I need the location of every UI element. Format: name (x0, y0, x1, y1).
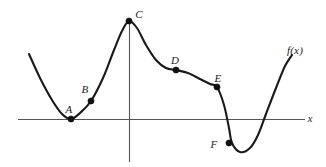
marked-point-b (88, 98, 94, 104)
point-label-c: C (135, 9, 143, 20)
function-curve (29, 21, 292, 152)
point-label-a: A (66, 104, 73, 115)
x-axis-label: x (308, 114, 313, 125)
curve-group (29, 21, 292, 152)
point-label-b: B (82, 84, 89, 95)
graph-figure: ABCDEF f(x) x (0, 0, 326, 167)
graph-canvas (0, 0, 326, 167)
marked-point-e (214, 84, 220, 90)
point-label-e: E (215, 73, 222, 84)
point-label-d: D (171, 55, 179, 66)
marked-point-d (173, 67, 179, 73)
marked-point-a (68, 116, 74, 122)
function-label: f(x) (287, 45, 303, 56)
axes-group (18, 21, 305, 162)
marked-point-f (226, 140, 232, 146)
marked-point-c (126, 18, 132, 24)
point-label-f: F (211, 139, 218, 150)
